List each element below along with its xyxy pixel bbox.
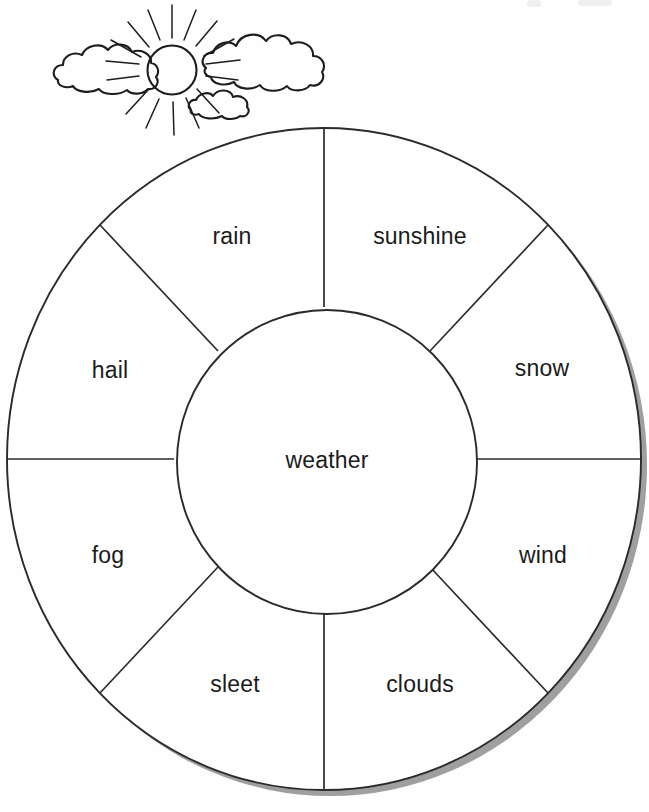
segment-label-wind: wind xyxy=(518,542,567,568)
segment-label-rain: rain xyxy=(212,223,251,249)
weather-word-wheel: weather sunshine snow wind clouds sleet … xyxy=(0,0,649,812)
hub-label: weather xyxy=(284,447,368,473)
segment-label-hail: hail xyxy=(92,357,129,383)
segment-label-snow: snow xyxy=(515,355,570,381)
segment-label-sleet: sleet xyxy=(210,671,260,697)
word-wheel-layer: weather sunshine snow wind clouds sleet … xyxy=(0,0,649,812)
segment-label-clouds: clouds xyxy=(386,671,454,697)
segment-label-fog: fog xyxy=(92,542,125,568)
page-root: weather sunshine snow wind clouds sleet … xyxy=(0,0,649,812)
segment-label-sunshine: sunshine xyxy=(373,223,467,249)
